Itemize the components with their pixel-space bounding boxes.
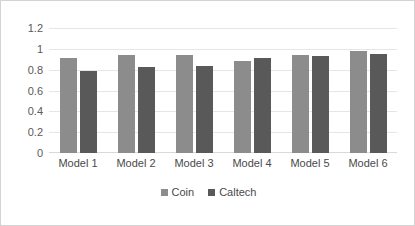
bar-chart-container: 1.210.80.60.40.20 Model 1Model 2Model 3M… <box>0 0 415 226</box>
x-axis-tick-label: Model 2 <box>107 157 165 169</box>
bar-group <box>223 28 281 153</box>
bar-group <box>165 28 223 153</box>
bar-groups <box>49 28 397 153</box>
bar-caltech-model-4[interactable] <box>254 58 271 153</box>
y-axis-tick-label: 1 <box>37 44 43 55</box>
bar-group <box>49 28 107 153</box>
y-axis-tick-label: 0.4 <box>28 106 43 117</box>
legend-label: Coin <box>172 187 195 198</box>
bar-coin-model-3[interactable] <box>176 55 193 153</box>
y-axis-tick-label: 0.6 <box>28 86 43 97</box>
legend-label: Caltech <box>219 187 256 198</box>
x-axis-labels: Model 1Model 2Model 3Model 4Model 5Model… <box>49 157 397 169</box>
bar-coin-model-1[interactable] <box>60 58 77 153</box>
y-axis-tick-label: 1.2 <box>28 23 43 34</box>
legend-item-coin[interactable]: Coin <box>161 187 195 198</box>
x-axis-tick-label: Model 6 <box>339 157 397 169</box>
bar-coin-model-2[interactable] <box>118 55 135 153</box>
bar-coin-model-5[interactable] <box>292 55 309 153</box>
bar-group <box>281 28 339 153</box>
bar-caltech-model-5[interactable] <box>312 56 329 153</box>
chart-legend: CoinCaltech <box>1 187 415 198</box>
bar-coin-model-6[interactable] <box>350 51 367 153</box>
caltech-swatch-icon <box>208 189 215 196</box>
x-axis-tick-label: Model 1 <box>49 157 107 169</box>
y-axis-tick-label: 0 <box>37 148 43 159</box>
y-axis: 1.210.80.60.40.20 <box>9 28 43 153</box>
bar-group <box>339 28 397 153</box>
bar-coin-model-4[interactable] <box>234 61 251 153</box>
bar-caltech-model-2[interactable] <box>138 67 155 154</box>
bar-group <box>107 28 165 153</box>
x-axis-tick-label: Model 5 <box>281 157 339 169</box>
x-axis-tick-label: Model 3 <box>165 157 223 169</box>
x-axis-tick-label: Model 4 <box>223 157 281 169</box>
bar-caltech-model-6[interactable] <box>370 54 387 153</box>
bar-caltech-model-3[interactable] <box>196 66 213 154</box>
y-axis-tick-label: 0.8 <box>28 65 43 76</box>
y-axis-tick-label: 0.2 <box>28 127 43 138</box>
coin-swatch-icon <box>161 189 168 196</box>
legend-item-caltech[interactable]: Caltech <box>208 187 256 198</box>
bar-caltech-model-1[interactable] <box>80 71 97 153</box>
